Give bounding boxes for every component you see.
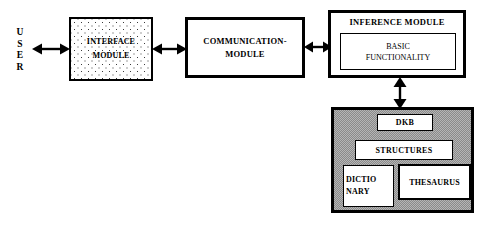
dictionary-box[interactable]: DICTIO NARY (343, 165, 394, 207)
interface-module-label: INTERFACE MODULE (87, 35, 135, 63)
inference-module-title: INFERENCE MODULE (331, 17, 463, 27)
architecture-diagram: U S E R INTERFACE MODULE COMMUNICATION- … (0, 0, 499, 231)
dictionary-label: DICTIO NARY (344, 174, 393, 198)
user-letter-e: E (12, 50, 28, 62)
structures-label: STRUCTURES (376, 146, 433, 155)
user-letter-u: U (12, 27, 28, 39)
dkb-container[interactable]: DKB STRUCTURES DICTIO NARY THESAURUS (331, 107, 474, 213)
user-letter-s: S (12, 39, 28, 51)
connector-user-to-interface-arrow (32, 42, 70, 56)
user-actor-label: U S E R (12, 27, 28, 73)
user-letter-r: R (12, 62, 28, 74)
structures-box[interactable]: STRUCTURES (355, 140, 453, 160)
communication-module-label: COMMUNICATION- MODULE (203, 35, 286, 61)
connector-inference-to-dkb-arrow (392, 77, 408, 109)
dkb-heading-box[interactable]: DKB (377, 114, 433, 131)
dkb-heading-label: DKB (396, 118, 415, 127)
basic-functionality-box[interactable]: BASIC FUNCTIONALITY (340, 33, 456, 70)
inference-module-box[interactable]: INFERENCE MODULE BASIC FUNCTIONALITY (328, 10, 466, 78)
connector-interface-to-communication-arrow (152, 42, 187, 56)
thesaurus-box[interactable]: THESAURUS (398, 164, 471, 200)
interface-module-box[interactable]: INTERFACE MODULE (69, 17, 153, 81)
communication-module-box[interactable]: COMMUNICATION- MODULE (185, 17, 305, 78)
thesaurus-label: THESAURUS (409, 178, 460, 187)
basic-functionality-label: BASIC FUNCTIONALITY (366, 41, 430, 63)
